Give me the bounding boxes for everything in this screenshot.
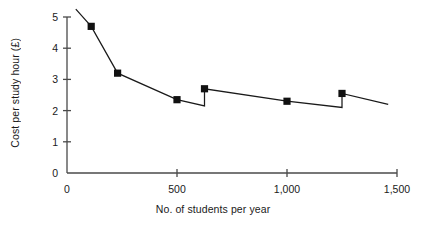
chart-figure: Cost per study hour (£) 012345 05001,000… [0, 0, 426, 232]
x-axis: 05001,0001,500 [64, 169, 410, 195]
y-tick-label: 3 [52, 73, 58, 85]
data-point-marker [201, 85, 208, 92]
x-tick-label: 1,500 [384, 183, 410, 195]
y-axis: 012345 [52, 11, 71, 179]
y-tick-label: 1 [52, 136, 58, 148]
data-point-marker [173, 96, 180, 103]
x-tick-label: 0 [64, 183, 70, 195]
y-tick-label: 2 [52, 105, 58, 117]
x-tick-label: 500 [168, 183, 186, 195]
y-tick-label: 0 [52, 167, 58, 179]
data-markers [88, 23, 346, 105]
data-point-marker [338, 90, 345, 97]
x-axis-title: No. of students per year [0, 203, 426, 215]
x-tick-label: 1,000 [274, 183, 300, 195]
data-point-marker [114, 70, 121, 77]
data-point-marker [283, 98, 290, 105]
y-tick-label: 4 [52, 42, 58, 54]
y-tick-label: 5 [52, 11, 58, 23]
chart-plot-area: 012345 05001,0001,500 [0, 0, 426, 232]
data-point-marker [88, 23, 95, 30]
